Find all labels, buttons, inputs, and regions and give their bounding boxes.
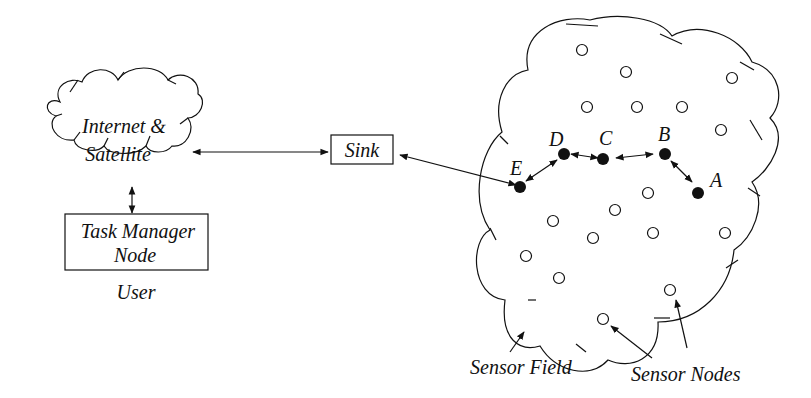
internet-label-line2: Satellite (85, 143, 151, 165)
sensor-field-label: Sensor Field (470, 356, 573, 378)
path-nodes (514, 148, 704, 199)
node-b (659, 148, 671, 160)
sink-e-link (400, 155, 516, 185)
sensor-nodes-label: Sensor Nodes (631, 363, 741, 385)
node-d-label: D (548, 128, 564, 150)
internet-satellite-cloud (47, 68, 202, 154)
label-pointers (510, 300, 687, 358)
task-manager-line1: Task Manager (81, 220, 195, 243)
sensor-network-diagram: Internet & Satellite Sink Task Manager N… (0, 0, 811, 398)
node-c (597, 153, 609, 165)
node-e-label: E (509, 157, 522, 179)
node-a-label: A (708, 169, 723, 191)
node-b-label: B (658, 123, 670, 145)
node-c-label: C (599, 127, 613, 149)
user-label: User (117, 281, 156, 303)
sensor-nodes (521, 45, 738, 325)
node-a (692, 187, 704, 199)
task-manager-line2: Node (113, 244, 156, 266)
internet-label-line1: Internet & (81, 115, 166, 137)
node-e (514, 181, 526, 193)
sink-label: Sink (345, 139, 381, 161)
